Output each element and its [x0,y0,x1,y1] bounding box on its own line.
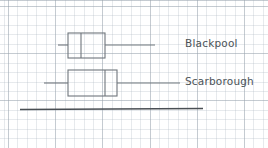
blackpool-box [68,33,105,58]
boxplot-drawing [0,0,268,148]
series-label-blackpool: Blackpool [185,37,238,49]
horizontal-axis-line [20,109,203,110]
boxplot-scarborough [44,70,180,96]
boxplot-figure: Blackpool Scarborough [0,0,268,148]
scarborough-box [68,70,117,96]
series-label-scarborough: Scarborough [185,75,254,87]
boxplot-blackpool [58,33,155,58]
